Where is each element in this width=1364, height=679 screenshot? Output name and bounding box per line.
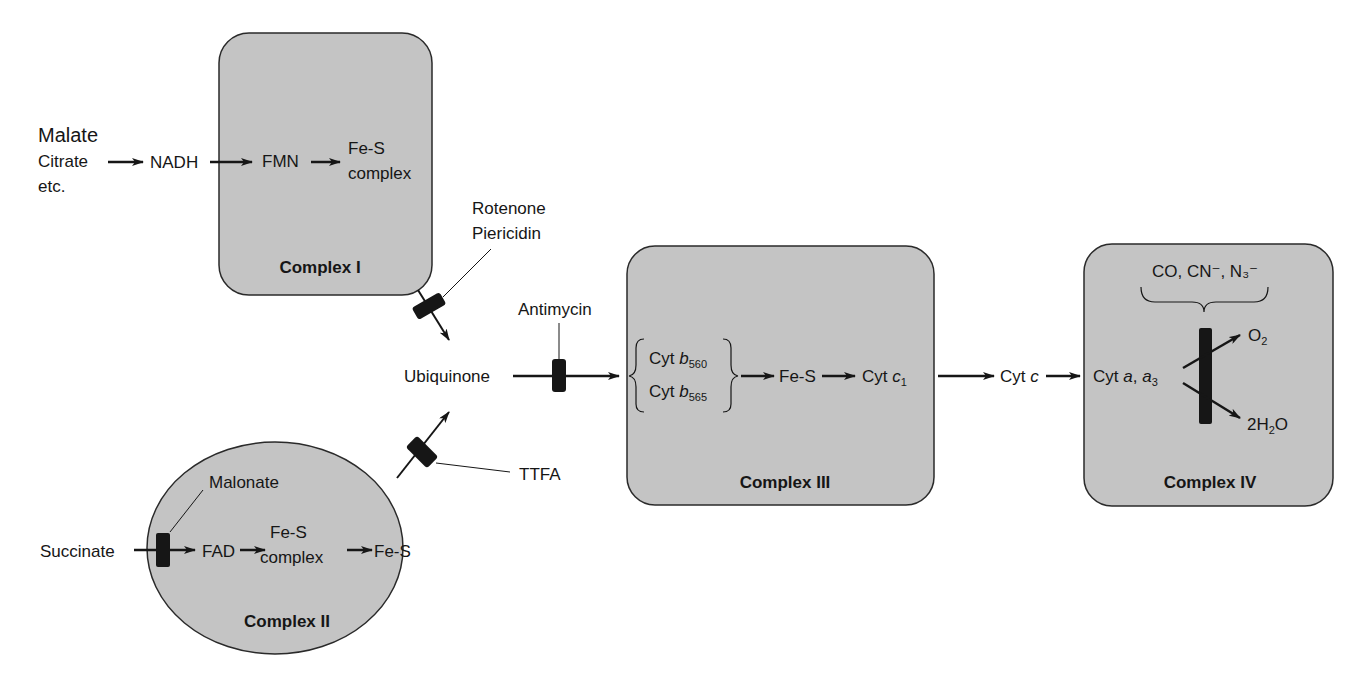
- complex-1: Complex I FMN Fe-S complex: [219, 33, 432, 295]
- fad-label: FAD: [202, 542, 235, 561]
- complex-2-label: Complex II: [244, 612, 330, 631]
- complex-1-label: Complex I: [279, 258, 360, 277]
- ttfa-block-icon: [406, 436, 439, 469]
- etc-label: etc.: [38, 177, 65, 196]
- antimycin-label: Antimycin: [518, 300, 592, 319]
- citrate-label: Citrate: [38, 152, 88, 171]
- malate-label: Malate: [38, 124, 98, 146]
- complex-2-fes-complex-line1: Fe-S: [270, 523, 307, 542]
- malonate-label: Malonate: [209, 473, 279, 492]
- rotenone-block-icon: [412, 292, 447, 320]
- cyt-c1-label: Cyt c1: [862, 367, 907, 388]
- complex-4: Complex IV CO, CN⁻, N₃⁻ Cyt a, a3 O2 2H2…: [1084, 244, 1333, 506]
- nadh-label: NADH: [150, 153, 198, 172]
- complex-3: Complex III Cyt b560 Cyt b565 Fe-S Cyt c…: [627, 246, 934, 505]
- cyt-a-a3-label: Cyt a, a3: [1093, 367, 1158, 388]
- cyt-c-label: Cyt c: [1000, 367, 1039, 386]
- complex-2-fes-complex-line2: complex: [260, 548, 324, 567]
- piericidin-label: Piericidin: [472, 224, 541, 243]
- complex-1-fes-line2: complex: [348, 164, 412, 183]
- rotenone-leader-line: [443, 249, 491, 297]
- complex-1-fes-line1: Fe-S: [348, 139, 385, 158]
- antimycin-block-icon: [552, 359, 566, 392]
- complex-3-label: Complex III: [740, 473, 831, 492]
- succinate-label: Succinate: [40, 542, 115, 561]
- complex-2-fes-label: Fe-S: [374, 542, 411, 561]
- complex-4-inhibitors-label: CO, CN⁻, N₃⁻: [1152, 262, 1258, 281]
- ttfa-leader-line: [436, 463, 510, 472]
- complex-4-label: Complex IV: [1164, 473, 1257, 492]
- rotenone-label: Rotenone: [472, 199, 546, 218]
- complex-2: Complex II Malonate FAD Fe-S complex Fe-…: [147, 442, 411, 654]
- ttfa-label: TTFA: [519, 465, 561, 484]
- electron-transport-diagram: Complex I FMN Fe-S complex Malate Citrat…: [0, 0, 1364, 679]
- fmn-label: FMN: [262, 152, 299, 171]
- ubiquinone-label: Ubiquinone: [404, 367, 490, 386]
- malonate-block-icon: [156, 533, 170, 567]
- complex-4-block-icon: [1199, 328, 1212, 424]
- water-label: 2H2O: [1247, 415, 1288, 436]
- complex-3-fes-label: Fe-S: [779, 367, 816, 386]
